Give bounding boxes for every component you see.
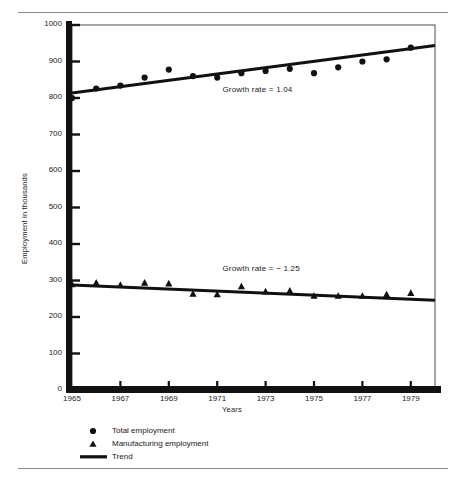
annotation-growth-rate-total: Growth rate = 1.04 xyxy=(222,85,292,94)
legend-item-manufacturing-employment: Manufacturing employment xyxy=(78,437,338,450)
y-tick-label: 1000 xyxy=(28,19,62,28)
y-tick-mark xyxy=(72,352,80,354)
y-tick-label: 0 xyxy=(28,384,62,393)
data-point-total-employment xyxy=(93,85,99,91)
y-tick-mark xyxy=(72,24,80,26)
legend-item-trend: Trend xyxy=(78,450,338,463)
data-point-total-employment xyxy=(408,45,414,51)
legend-label: Total employment xyxy=(112,424,175,437)
x-tick-label: 1969 xyxy=(149,394,189,403)
y-tick-mark xyxy=(72,206,80,208)
legend-label: Manufacturing employment xyxy=(112,437,209,450)
data-point-total-employment xyxy=(335,64,341,70)
y-tick-label: 800 xyxy=(28,92,62,101)
y-tick-label: 600 xyxy=(28,165,62,174)
data-point-total-employment xyxy=(69,95,75,101)
x-tick-mark xyxy=(410,381,412,390)
y-axis-bar xyxy=(66,21,72,390)
x-tick-label: 1979 xyxy=(391,394,431,403)
y-tick-mark xyxy=(72,133,80,135)
x-tick-label: 1975 xyxy=(294,394,334,403)
x-tick-label: 1973 xyxy=(246,394,286,403)
legend-item-total-employment: Total employment xyxy=(78,424,338,437)
y-tick-label: 300 xyxy=(28,275,62,284)
plot-frame xyxy=(72,25,435,390)
data-point-total-employment xyxy=(238,70,244,76)
x-tick-mark xyxy=(119,381,121,390)
triangle-marker-icon xyxy=(78,437,108,450)
data-point-total-employment xyxy=(384,56,390,62)
x-tick-label: 1965 xyxy=(52,394,92,403)
line-marker-icon xyxy=(78,450,108,463)
data-point-total-employment xyxy=(214,74,220,80)
data-point-total-employment xyxy=(287,66,293,72)
y-tick-label: 400 xyxy=(28,238,62,247)
y-tick-label: 700 xyxy=(28,129,62,138)
y-tick-label: 100 xyxy=(28,348,62,357)
x-axis-bar xyxy=(66,386,441,393)
x-tick-mark xyxy=(313,381,315,390)
data-point-total-employment xyxy=(166,66,172,72)
y-tick-mark xyxy=(72,170,80,172)
y-tick-label: 900 xyxy=(28,56,62,65)
y-tick-label: 200 xyxy=(28,311,62,320)
data-point-total-employment xyxy=(263,68,269,74)
chart-figure: Employment in thousands Years 0100200300… xyxy=(0,0,464,483)
y-tick-mark xyxy=(72,316,80,318)
x-tick-label: 1977 xyxy=(342,394,382,403)
data-point-total-employment xyxy=(311,70,317,76)
x-tick-label: 1967 xyxy=(100,394,140,403)
data-point-total-employment xyxy=(359,58,365,64)
data-point-total-employment xyxy=(190,73,196,79)
y-tick-mark xyxy=(72,279,80,281)
chart-legend: Total employment Manufacturing employmen… xyxy=(78,424,338,463)
data-point-total-employment xyxy=(117,82,123,88)
x-tick-mark xyxy=(216,381,218,390)
x-tick-mark xyxy=(265,381,267,390)
annotation-growth-rate-manufacturing: Growth rate = − 1.25 xyxy=(222,264,299,273)
x-tick-mark xyxy=(361,381,363,390)
x-tick-label: 1971 xyxy=(197,394,237,403)
circle-marker-icon xyxy=(78,424,108,437)
legend-label: Trend xyxy=(112,450,133,463)
y-tick-mark xyxy=(72,243,80,245)
y-tick-mark xyxy=(72,60,80,62)
data-point-total-employment xyxy=(142,74,148,80)
x-tick-mark xyxy=(168,381,170,390)
x-axis-title: Years xyxy=(0,405,464,414)
y-tick-label: 500 xyxy=(28,202,62,211)
